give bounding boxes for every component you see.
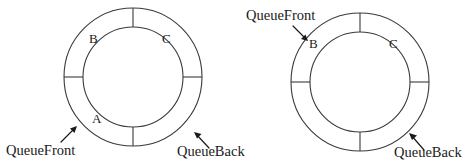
circular-queue-figure: A B C QueueFront QueueBack B C QueueFron… (0, 0, 476, 167)
left-queue-back-label: QueueBack (177, 144, 245, 159)
left-slot-label-c: C (162, 32, 171, 45)
left-queue-front-label: QueueFront (6, 143, 75, 158)
left-queue-back-arrow-head (194, 132, 202, 139)
right-queue-ring (291, 13, 429, 151)
right-slot-label-b: B (309, 37, 318, 50)
right-queue-front-label: QueueFront (246, 8, 315, 23)
right-queue-back-arrow-head (409, 133, 417, 140)
left-slot-label-a: A (92, 112, 101, 125)
left-queue-ring (64, 8, 202, 146)
right-slot-label-c: C (389, 37, 398, 50)
left-outer-circle (64, 8, 202, 146)
right-outer-circle (291, 13, 429, 151)
right-queue-back-label: QueueBack (394, 145, 462, 160)
left-queue-front-arrow (61, 126, 77, 142)
right-queue-front-arrow (293, 26, 308, 41)
left-slot-label-b: B (89, 32, 98, 45)
